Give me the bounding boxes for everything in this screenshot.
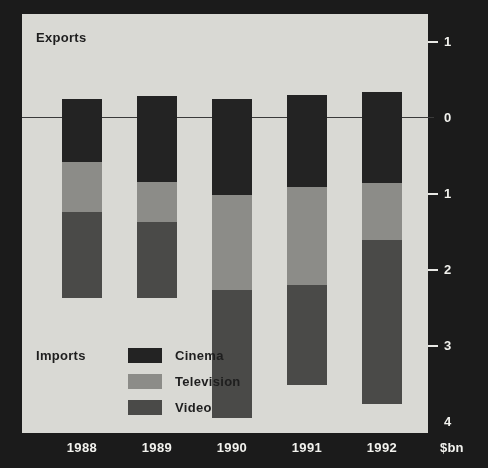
y-tick-label-4: 3 [444, 339, 452, 352]
bar-segment-video-1992 [362, 240, 402, 404]
x-tick-label-1989: 1989 [122, 440, 192, 455]
legend-item-video[interactable]: Video [128, 394, 241, 420]
legend-label-television: Television [175, 374, 241, 389]
y-tick-mark-3 [428, 269, 438, 271]
legend-swatch-cinema [128, 348, 162, 363]
legend-label-video: Video [175, 400, 212, 415]
bar-segment-exports-1992 [362, 92, 402, 117]
y-tick-label-0: 1 [444, 35, 452, 48]
bar-segment-cinema-1988 [62, 117, 102, 162]
bar-segment-video-1991 [287, 285, 327, 385]
bar-segment-video-1989 [137, 222, 177, 298]
bar-segment-television-1989 [137, 182, 177, 222]
y-tick-mark-2 [428, 193, 438, 195]
legend-label-cinema: Cinema [175, 348, 224, 363]
legend-item-television[interactable]: Television [128, 368, 241, 394]
bar-segment-television-1991 [287, 187, 327, 285]
bar-segment-video-1988 [62, 212, 102, 298]
y-tick-label-5: 4 [444, 415, 452, 428]
bar-segment-exports-1990 [212, 99, 252, 117]
legend-swatch-video [128, 400, 162, 415]
y-tick-mark-0 [428, 41, 438, 43]
imports-label: Imports [36, 348, 86, 363]
bar-segment-cinema-1989 [137, 117, 177, 182]
bar-group-1988 [62, 0, 102, 468]
y-tick-mark-4 [428, 345, 438, 347]
y-tick-label-2: 1 [444, 187, 452, 200]
y-tick-label-3: 2 [444, 263, 452, 276]
legend-swatch-television [128, 374, 162, 389]
x-tick-label-1991: 1991 [272, 440, 342, 455]
legend-item-cinema[interactable]: Cinema [128, 342, 241, 368]
axis-unit-label: $bn [440, 440, 464, 455]
chart-legend: CinemaTelevisionVideo [128, 342, 241, 420]
bar-segment-exports-1989 [137, 96, 177, 117]
x-tick-label-1992: 1992 [347, 440, 417, 455]
bar-segment-television-1990 [212, 195, 252, 290]
x-tick-label-1988: 1988 [47, 440, 117, 455]
bar-segment-exports-1991 [287, 95, 327, 117]
bar-group-1991 [287, 0, 327, 468]
bar-segment-cinema-1991 [287, 117, 327, 187]
bar-segment-cinema-1990 [212, 117, 252, 195]
bar-segment-cinema-1992 [362, 117, 402, 183]
bar-segment-television-1992 [362, 183, 402, 240]
bar-segment-exports-1988 [62, 99, 102, 117]
exports-label: Exports [36, 30, 87, 45]
y-tick-label-1: 0 [444, 111, 452, 124]
x-tick-label-1990: 1990 [197, 440, 267, 455]
bar-group-1992 [362, 0, 402, 468]
stacked-bar-chart: 101234 19881989199019911992 $bn Exports … [0, 0, 488, 468]
bar-segment-television-1988 [62, 162, 102, 212]
